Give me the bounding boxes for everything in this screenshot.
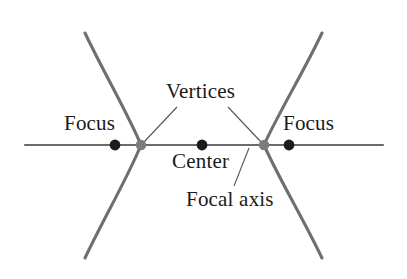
leader-line-vertices-right	[228, 107, 261, 142]
label-focus-right: Focus	[283, 113, 334, 134]
label-focus-left: Focus	[64, 113, 115, 134]
focus-dot-left	[110, 140, 121, 151]
focus-dot-right	[284, 140, 295, 151]
leader-line-vertices-left	[144, 107, 177, 142]
leader-line-focal-axis	[234, 148, 249, 186]
label-focal-axis: Focal axis	[186, 189, 274, 210]
hyperbola-diagram: Focus Focus Vertices Center Focal axis	[0, 0, 407, 279]
label-center: Center	[172, 151, 229, 172]
diagram-canvas	[0, 0, 407, 279]
label-vertices: Vertices	[166, 81, 235, 102]
vertex-dot-right	[259, 140, 269, 150]
vertex-dot-left	[136, 140, 146, 150]
